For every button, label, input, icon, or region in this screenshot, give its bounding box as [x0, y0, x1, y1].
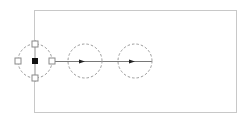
arrow-icon	[79, 60, 85, 64]
resize-handle-right[interactable]	[49, 58, 55, 64]
node-3[interactable]	[118, 44, 152, 78]
node-1[interactable]	[15, 40, 55, 82]
node-2-circle[interactable]	[68, 44, 102, 78]
resize-handle-left[interactable]	[15, 58, 21, 64]
diagram-canvas[interactable]	[0, 0, 251, 122]
node-2[interactable]	[68, 44, 102, 78]
arrow-icon	[129, 60, 135, 64]
node-3-circle[interactable]	[118, 44, 152, 78]
resize-handle-top[interactable]	[32, 41, 38, 47]
resize-handle-bottom[interactable]	[32, 75, 38, 81]
anchor-handle-center[interactable]	[32, 58, 38, 64]
